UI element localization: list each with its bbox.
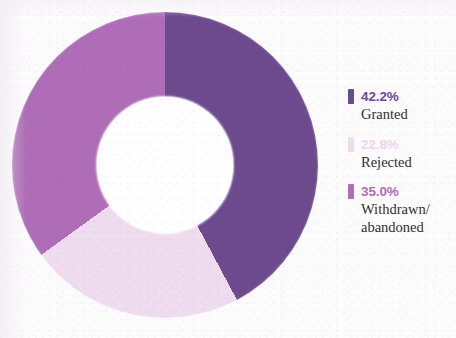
legend-swatch-withdrawn: [348, 184, 354, 199]
legend-swatch-granted: [348, 89, 354, 104]
donut-center-hole: [97, 97, 233, 233]
legend-item-withdrawn: 35.0% Withdrawn/ abandoned: [348, 183, 456, 236]
legend-value-rejected: 22.8%: [361, 137, 399, 152]
chart-page: 42.2% Granted 22.8% Rejected 35.0% Withd…: [0, 0, 456, 338]
legend-item-rejected: 22.8% Rejected: [348, 136, 456, 172]
legend-label-granted: Granted: [361, 106, 456, 124]
chart-legend: 42.2% Granted 22.8% Rejected 35.0% Withd…: [348, 88, 456, 248]
legend-value-granted: 42.2%: [361, 89, 399, 104]
legend-item-granted: 42.2% Granted: [348, 88, 456, 124]
legend-head: 22.8%: [348, 136, 456, 153]
legend-head: 42.2%: [348, 88, 456, 105]
legend-value-withdrawn: 35.0%: [361, 184, 399, 199]
legend-label-withdrawn-line2: abandoned: [361, 219, 456, 237]
legend-head: 35.0%: [348, 183, 456, 200]
legend-label-rejected: Rejected: [361, 154, 456, 172]
legend-label-withdrawn-line1: Withdrawn/: [361, 201, 456, 219]
donut-chart: [12, 12, 318, 318]
legend-swatch-rejected: [348, 137, 354, 152]
